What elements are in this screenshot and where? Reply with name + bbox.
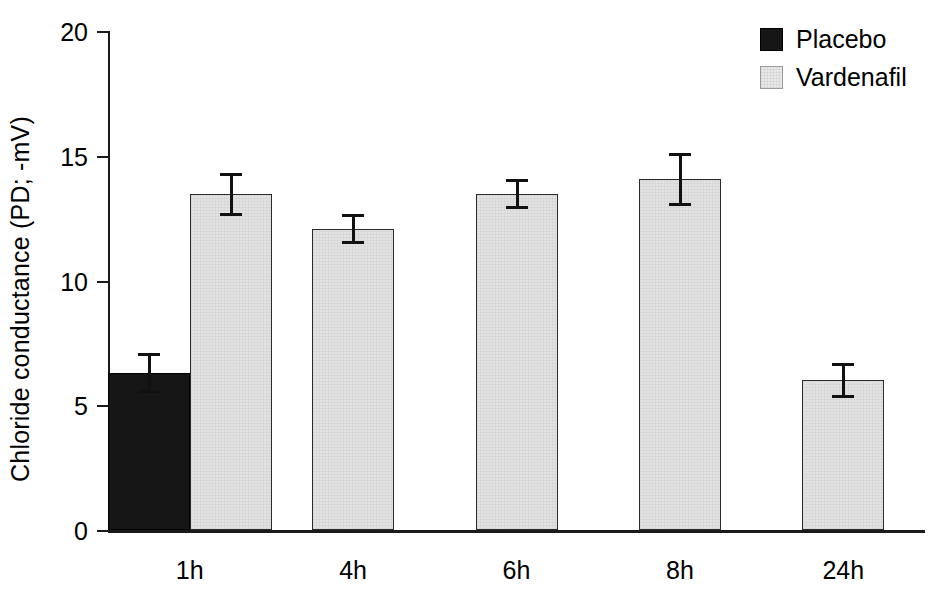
error-bar-stem — [842, 363, 845, 398]
y-axis-tick: 15 — [97, 156, 108, 158]
error-bar-cap-top — [138, 353, 160, 356]
error-bar-cap-top — [220, 173, 242, 176]
x-axis-tick-label-6h: 6h — [503, 556, 531, 585]
black-square-swatch — [760, 28, 783, 51]
y-axis-title: Chloride conductance (PD; -mV) — [0, 0, 46, 598]
bar-chart-figure: Chloride conductance (PD; -mV) 05101520 … — [0, 0, 938, 598]
error-bar-stem — [230, 173, 233, 215]
x-axis-tick-label-8h: 8h — [666, 556, 694, 585]
error-bar-cap-top — [669, 153, 691, 156]
bar-vardenafil-1h — [190, 194, 272, 530]
y-axis-tick: 0 — [97, 530, 108, 532]
error-bar-stem — [148, 353, 151, 393]
y-axis-tick-label: 5 — [74, 392, 88, 421]
legend-label: Placebo — [796, 27, 886, 52]
error-bar-cap-bottom — [138, 390, 160, 393]
error-bar-stem — [679, 153, 682, 205]
error-bar-cap-top — [832, 363, 854, 366]
bar-vardenafil-6h — [476, 194, 558, 530]
x-axis-tick-label-1h: 1h — [176, 556, 204, 585]
y-axis-tick-label: 0 — [74, 517, 88, 546]
error-bar-stem — [352, 214, 355, 244]
y-axis-tick-label: 15 — [60, 142, 88, 171]
bar-placebo-1h — [108, 373, 190, 530]
error-bar-cap-bottom — [506, 206, 528, 209]
y-axis-tick-label: 10 — [60, 267, 88, 296]
bar-vardenafil-8h — [639, 179, 721, 530]
gray-square-swatch — [760, 66, 783, 89]
error-bar-stem — [516, 179, 519, 209]
error-bar-cap-bottom — [220, 213, 242, 216]
x-axis-tick-label-24h: 24h — [822, 556, 864, 585]
y-axis-tick: 20 — [97, 31, 108, 33]
error-bar-cap-bottom — [669, 203, 691, 206]
bar-vardenafil-24h — [802, 380, 884, 530]
error-bar-cap-top — [506, 179, 528, 182]
y-axis-tick: 5 — [97, 405, 108, 407]
x-axis-tick-label-4h: 4h — [339, 556, 367, 585]
x-axis-line — [108, 530, 925, 533]
y-axis-tick: 10 — [97, 281, 108, 283]
error-bar-cap-bottom — [832, 395, 854, 398]
legend-item-vardenafil[interactable]: Vardenafil — [760, 62, 907, 92]
plot-area: 05101520 1h4h6h8h24h — [108, 31, 925, 532]
bar-vardenafil-4h — [312, 229, 394, 530]
chart-legend: PlaceboVardenafil — [760, 24, 907, 92]
legend-label: Vardenafil — [796, 65, 907, 90]
error-bar-cap-top — [342, 214, 364, 217]
legend-item-placebo[interactable]: Placebo — [760, 24, 907, 54]
error-bar-cap-bottom — [342, 241, 364, 244]
y-axis-tick-label: 20 — [60, 18, 88, 47]
